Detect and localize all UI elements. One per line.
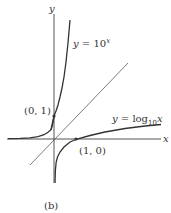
exp-curve	[8, 20, 70, 139]
point-1-0-label: (1, 0)	[79, 145, 106, 156]
exp-label: y = 10x	[72, 37, 110, 49]
point-0-1-label: (0, 1)	[24, 105, 51, 116]
log-label: y = log10x	[111, 113, 163, 127]
exp-label-main: = 10	[79, 38, 106, 49]
chart-canvas: y x y = 10x y = log10x (0, 1) (1, 0) (b)	[0, 0, 171, 213]
y-axis-label: y	[48, 3, 55, 14]
log-curve	[55, 125, 161, 184]
figure-caption: (b)	[44, 200, 58, 211]
x-axis-label: x	[163, 133, 169, 144]
point-0-1	[52, 114, 55, 117]
point-1-0	[74, 137, 77, 140]
